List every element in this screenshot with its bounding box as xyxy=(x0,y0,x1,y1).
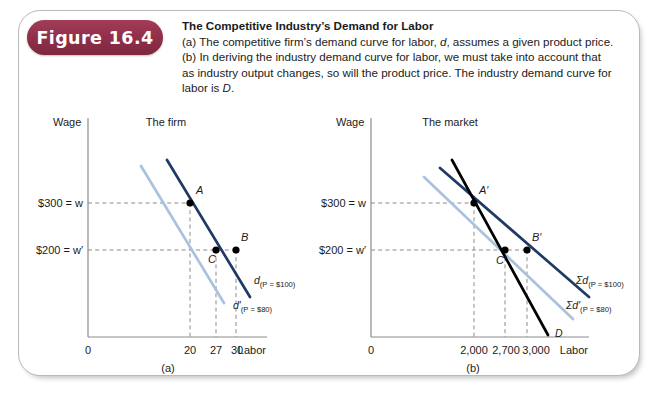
panel-b-curve-sigma-d-label: Σd(P = $100) xyxy=(575,274,624,289)
panel-b-point-B-prime xyxy=(523,246,530,253)
panel-b-curve-sigma-d-prime-label: Σd′(P = $80) xyxy=(565,299,612,314)
panel-b-point-A-prime-label: A′ xyxy=(478,184,489,196)
caption-line-b3: labor is D. xyxy=(182,80,626,95)
panel-a-point-B-label: B xyxy=(241,231,248,243)
panel-a-point-B xyxy=(232,246,239,253)
panel-b-chart: Wage The market A xyxy=(319,116,624,374)
panel-b-curve-D-label: D xyxy=(555,327,563,339)
panel-b-curve-sigma-d-prime xyxy=(424,177,573,319)
panel-a-curve-dp-label-sub: (P = $80) xyxy=(241,305,273,314)
panel-a-curve-d-label-sub: (P = $100) xyxy=(260,280,296,289)
figure-page: Figure 16.4 The Competitive Industry’s D… xyxy=(0,0,664,409)
panel-a-panel-label: (a) xyxy=(161,362,174,374)
panel-b-xtick-2000: 2,000 xyxy=(460,344,488,356)
figure-caption: The Competitive Industry’s Demand for La… xyxy=(182,18,626,96)
figure-number-label: Figure 16.4 xyxy=(36,28,153,48)
panel-a-point-C-label: C xyxy=(208,253,216,265)
panel-b-xtick-2700: 2,700 xyxy=(492,344,520,356)
caption-line-b1: (b) In deriving the industry demand curv… xyxy=(182,49,626,64)
caption-text-a: (a) The competitive firm’s demand curve … xyxy=(182,35,613,48)
panel-b-curve-sd-label-sub: (P = $100) xyxy=(588,280,624,289)
panel-b-point-A-prime xyxy=(470,199,477,206)
panel-b-xlabel: Labor xyxy=(560,344,588,356)
panel-b-ylabel: Wage xyxy=(336,116,364,128)
panel-b-point-C-prime xyxy=(501,246,508,253)
caption-text-b2: as industry output changes, so will the … xyxy=(182,66,612,79)
panel-a-curve-d-prime-label: d′(P = $80) xyxy=(233,299,273,314)
panel-a-origin-label: 0 xyxy=(85,344,91,356)
panel-b-curve-sdp-label-sub: (P = $80) xyxy=(580,305,612,314)
panel-a-curve-d-label: d(P = $100) xyxy=(254,274,296,289)
caption-text-b1: (b) In deriving the industry demand curv… xyxy=(182,50,601,63)
caption-line-a: (a) The competitive firm’s demand curve … xyxy=(182,34,626,49)
panel-b-title: The market xyxy=(422,116,478,128)
panel-a-xlabel: Labor xyxy=(238,344,266,356)
figures-svg: Wage The firm A B xyxy=(18,104,640,376)
panel-a-ylabel: Wage xyxy=(53,116,81,128)
caption-line-b2: as industry output changes, so will the … xyxy=(182,65,626,80)
panel-b-point-B-prime-label: B′ xyxy=(532,231,542,243)
panel-a-xtick-20: 20 xyxy=(184,344,196,356)
panel-a-ytick-200: $200 = w′ xyxy=(36,244,83,256)
panel-b-ytick-200: $200 = w′ xyxy=(319,244,366,256)
panel-b-panel-label: (b) xyxy=(466,362,479,374)
figure-number-badge: Figure 16.4 xyxy=(27,20,163,55)
panel-b-ytick-300: $300 = w xyxy=(321,197,366,209)
panel-a-ytick-300: $300 = w xyxy=(38,197,83,209)
panel-b-curve-sd-label-main: Σd xyxy=(575,274,589,286)
panel-a-xtick-27: 27 xyxy=(210,344,222,356)
panel-b-origin-label: 0 xyxy=(368,344,374,356)
panel-b-curve-sigma-d xyxy=(440,168,589,297)
panel-b-point-C-prime-label: C′ xyxy=(496,254,507,266)
panel-a-chart: Wage The firm A B xyxy=(36,116,296,374)
panel-a-point-A xyxy=(186,199,193,206)
panel-b-curve-sdp-label-main: Σd′ xyxy=(565,299,581,311)
panel-a-title: The firm xyxy=(146,116,186,128)
panel-b-xtick-3000: 3,000 xyxy=(522,344,550,356)
figure-title: The Competitive Industry’s Demand for La… xyxy=(182,18,626,33)
caption-text-b3: labor is D. xyxy=(182,81,234,94)
charts-container: Wage The firm A B xyxy=(18,104,640,376)
panel-a-point-A-label: A xyxy=(195,184,203,196)
